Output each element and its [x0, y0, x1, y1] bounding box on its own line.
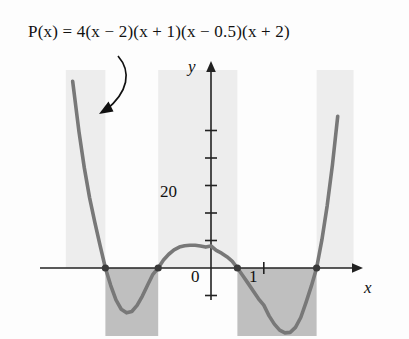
x-tick-label-0: 0	[191, 267, 200, 287]
x-tick-label-1: 1	[249, 267, 258, 287]
sign-band-positive	[158, 70, 237, 268]
y-axis-label: y	[188, 57, 196, 77]
root-marker	[313, 264, 320, 271]
polynomial-formula-label: P(x) = 4(x − 2)(x + 1)(x − 0.5)(x + 2)	[28, 22, 290, 42]
y-axis-arrow-icon	[206, 61, 216, 72]
polynomial-graph	[0, 0, 409, 339]
root-marker	[155, 264, 162, 271]
root-marker	[234, 264, 241, 271]
x-axis-label: x	[364, 278, 372, 298]
annotation-arrow-icon	[106, 56, 126, 110]
y-tick-label-20: 20	[160, 182, 177, 202]
figure-canvas: P(x) = 4(x − 2)(x + 1)(x − 0.5)(x + 2) y…	[0, 0, 409, 339]
root-marker	[102, 264, 109, 271]
x-axis-arrow-icon	[352, 263, 363, 273]
